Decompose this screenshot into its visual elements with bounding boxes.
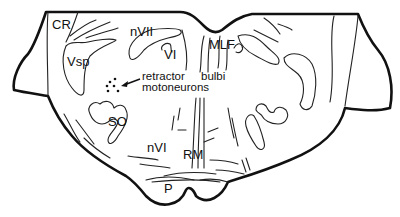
- fiber-2: [74, 22, 110, 40]
- ventral-fiber-right-2: [216, 170, 244, 174]
- label-so: SO: [108, 115, 127, 128]
- right-fiber-3: [278, 24, 292, 30]
- diagram-drawing: [0, 0, 400, 217]
- brainstem-section-diagram: CR Vsp nVII VI MLF retractor bulbi moton…: [0, 0, 400, 217]
- label-vsp: Vsp: [67, 55, 89, 68]
- ventral-fiber-left-5: [140, 164, 170, 168]
- label-cr: CR: [52, 18, 71, 31]
- raphe-dash-4: [208, 128, 218, 132]
- ventral-fiber-left-6: [164, 173, 216, 176]
- label-mlf: MLF: [209, 38, 235, 51]
- ventral-fiber-left-7: [152, 180, 220, 182]
- ventral-fiber-left-3: [84, 138, 110, 158]
- right-fiber-2: [264, 18, 280, 34]
- raphe-dash-9: [246, 158, 250, 170]
- arrow-icon: [121, 79, 140, 87]
- label-nvi: nVI: [147, 141, 167, 154]
- midline-line-1: [182, 30, 187, 70]
- ventral-fiber-right-1: [210, 160, 238, 164]
- raphe-dash-1: [178, 108, 180, 120]
- fiber-3: [86, 28, 118, 38]
- label-vi: VI: [164, 48, 176, 61]
- right-fiber-1: [254, 30, 278, 42]
- raphe-dash-8: [242, 160, 246, 172]
- retractor-bulbi-motoneurons-dots: [106, 78, 120, 93]
- midline-line-2: [200, 36, 204, 72]
- label-rm: RM: [183, 148, 203, 161]
- label-p: P: [164, 182, 173, 195]
- cr-boundary: [47, 12, 48, 96]
- label-nvii: nVII: [130, 25, 153, 38]
- raphe-dash-5: [204, 138, 214, 142]
- right-so-lobe: [246, 115, 265, 150]
- label-motoneurons: motoneurons: [142, 81, 209, 93]
- right-vsp-nucleus: [284, 54, 316, 110]
- right-so-nucleus: [256, 104, 288, 124]
- mlf-bulge: [234, 44, 243, 53]
- raphe-dash-2: [172, 116, 174, 130]
- ventral-fiber-left-4: [128, 156, 158, 160]
- right-lateral-line-2: [345, 16, 358, 106]
- right-lateral-line-1: [330, 16, 334, 102]
